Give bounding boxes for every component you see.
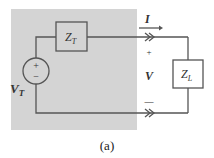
current-arrowhead-icon (159, 26, 163, 31)
figure-caption: (a) (100, 138, 114, 153)
voltage-label: V (145, 69, 154, 83)
circuit-diagram: + − VT ZT ZL I + V — (a) (0, 0, 214, 158)
voltage-plus-sign: + (146, 47, 151, 57)
source-plus-sign: + (33, 60, 39, 71)
source-minus-sign: − (33, 71, 39, 82)
load-impedance-label: ZL (181, 67, 193, 83)
thevenin-shaded-region (11, 9, 137, 130)
current-label: I (144, 12, 151, 26)
voltage-minus-sign: — (144, 96, 155, 106)
